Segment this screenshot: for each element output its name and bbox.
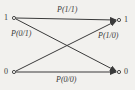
input-node-1 (12, 16, 15, 19)
binary-channel-diagram: 1 0 1 0 P(1/1) P(0/1) P(1/0) P(0/0) (0, 0, 135, 90)
output-node-0 (117, 70, 120, 73)
input-node-0 (12, 70, 15, 73)
input-label-0: 0 (4, 68, 8, 76)
edge-1-to-1 (16, 18, 116, 20)
output-label-1: 1 (124, 16, 128, 24)
output-label-0: 0 (124, 68, 128, 76)
edge-label-p-0-given-1: P(0/1) (11, 30, 31, 38)
edge-label-p-1-given-0: P(1/0) (98, 32, 118, 40)
edge-label-p-1-given-1: P(1/1) (57, 6, 77, 14)
output-node-1 (117, 18, 120, 21)
input-label-1: 1 (4, 14, 8, 22)
edge-label-p-0-given-0: P(0/0) (56, 76, 76, 84)
